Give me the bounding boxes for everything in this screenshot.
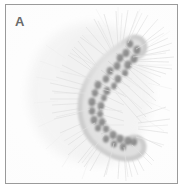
caterpillar-illustration bbox=[6, 5, 176, 182]
panel-frame-border: A bbox=[5, 4, 178, 184]
figure-panel: A bbox=[0, 0, 185, 190]
panel-label: A bbox=[15, 15, 25, 28]
caterpillar-photograph: A bbox=[6, 5, 177, 183]
